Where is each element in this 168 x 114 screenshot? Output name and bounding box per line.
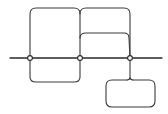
bottom-left-loop xyxy=(30,58,80,82)
top-right-inner-loop xyxy=(80,33,130,58)
top-left-loop xyxy=(30,8,80,58)
node-middle xyxy=(78,56,83,61)
node-right xyxy=(128,56,133,61)
node-left xyxy=(28,56,33,61)
diagram-canvas xyxy=(0,0,168,114)
bottom-right-box xyxy=(106,80,155,107)
pendant-stem xyxy=(127,58,133,80)
